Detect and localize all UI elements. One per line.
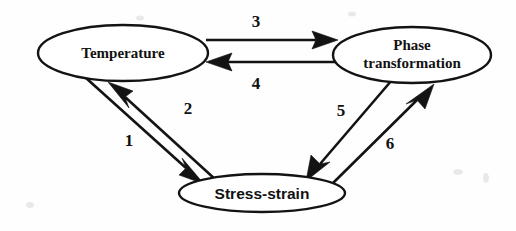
relationship-diagram: Temperature Phase transformation Stress-… — [0, 0, 516, 231]
edge-label-1: 1 — [125, 131, 134, 150]
edge-label-3: 3 — [252, 12, 261, 31]
node-temperature-label: Temperature — [81, 45, 165, 61]
edge-4-phase-to-temperature — [206, 53, 336, 71]
edge-label-6: 6 — [386, 134, 395, 153]
node-stress-strain-label: Stress-strain — [215, 185, 310, 202]
node-phase-transformation-label-line2: transformation — [363, 55, 461, 71]
diagram-canvas: Temperature Phase transformation Stress-… — [0, 0, 516, 231]
edge-label-4: 4 — [252, 74, 261, 93]
node-phase-transformation[interactable]: Phase transformation — [333, 27, 491, 83]
edge-label-2: 2 — [184, 99, 193, 118]
edge-3-temperature-to-phase — [206, 31, 338, 49]
node-phase-transformation-label-line1: Phase — [393, 37, 431, 53]
edge-1-temperature-to-stress — [86, 78, 204, 184]
node-stress-strain[interactable]: Stress-strain — [179, 174, 345, 212]
node-temperature[interactable]: Temperature — [38, 25, 208, 81]
edge-label-5: 5 — [337, 101, 346, 120]
